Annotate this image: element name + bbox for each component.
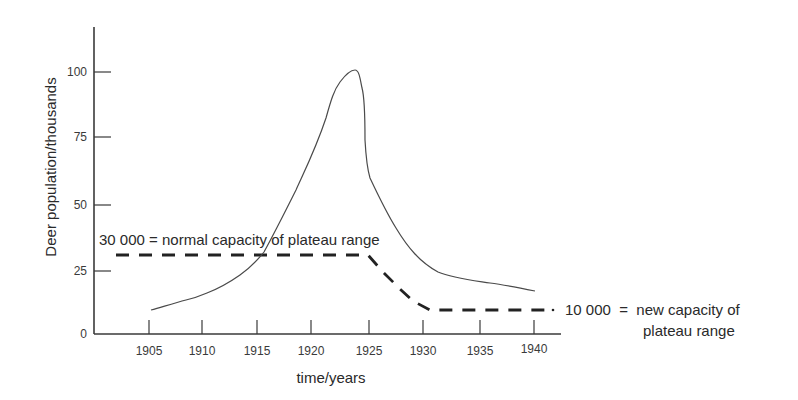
x-tick-1905: 1905	[136, 344, 163, 358]
y-axis-title: Deer population/thousands	[42, 77, 59, 256]
y-tick-75: 75	[74, 130, 88, 144]
x-tick-1925: 1925	[356, 344, 383, 358]
y-tick-0: 0	[80, 327, 87, 341]
x-tick-1920: 1920	[298, 344, 325, 358]
y-tick-50: 50	[74, 198, 88, 212]
deer-population-chart: 100 75 50 25 0 1905 1910 1915 1920 1925 …	[0, 0, 798, 400]
y-tick-labels: 100 75 50 25 0	[67, 65, 87, 341]
new-capacity-annotation-line1: 10 000 = new capacity of	[565, 301, 741, 318]
x-axis-title: time/years	[296, 369, 365, 386]
capacity-end-dot	[552, 309, 555, 312]
y-tick-25: 25	[74, 264, 88, 278]
x-tick-1910: 1910	[189, 344, 216, 358]
x-tick-1915: 1915	[244, 344, 271, 358]
x-tick-labels: 1905 1910 1915 1920 1925 1930 1935 1940	[136, 342, 548, 358]
population-curve	[151, 70, 535, 310]
normal-capacity-annotation: 30 000 = normal capacity of plateau rang…	[99, 231, 380, 248]
x-ticks	[149, 320, 534, 334]
x-tick-1930: 1930	[410, 344, 437, 358]
x-tick-1940: 1940	[521, 342, 548, 356]
y-tick-100: 100	[67, 65, 87, 79]
new-capacity-annotation-line2: plateau range	[643, 322, 735, 339]
x-tick-1935: 1935	[467, 344, 494, 358]
